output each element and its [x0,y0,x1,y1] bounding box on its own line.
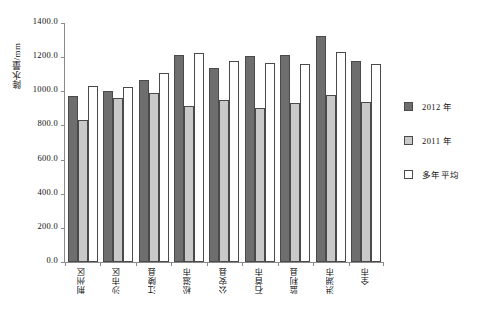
bar[interactable] [209,68,219,262]
bar[interactable] [245,56,255,262]
x-tick-mark [242,262,243,266]
x-axis-label: 监利县 [277,267,313,311]
legend-item[interactable]: 2012 年 [404,100,490,112]
x-tick-mark [207,262,208,266]
legend-label: 2012 年 [422,100,453,112]
y-axis-title: 降水量/mm [8,18,24,114]
bar[interactable] [280,55,290,262]
bar[interactable] [255,108,265,262]
y-tick-label: 800.0 [37,118,58,128]
y-tick-label: 1200.0 [33,50,58,60]
x-axis-label-text: 石首市 [254,267,266,294]
bar-group [242,24,277,262]
bar-groups [65,24,384,262]
plot-area: 1400.01200.01000.0800.0600.0400.0200.00.… [64,24,384,263]
bar-group [65,24,100,262]
bar[interactable] [139,80,149,262]
y-tick-label: 1000.0 [33,84,58,94]
x-axis-label: 石首市 [242,267,278,311]
chart-legend: 2012 年2011 年多年平均 [404,100,490,202]
bar[interactable] [103,91,113,262]
legend-swatch-icon [404,170,413,179]
bar[interactable] [174,55,184,262]
bar[interactable] [336,52,346,262]
x-axis-label-text: 洪湖市 [325,267,337,294]
legend-label: 多年平均 [422,168,460,180]
x-axis-label-text: 监利县 [289,267,301,294]
bar-group [171,24,206,262]
bar[interactable] [371,64,381,262]
bar[interactable] [229,61,239,262]
bar[interactable] [78,120,88,262]
bar[interactable] [113,98,123,262]
x-tick-mark [278,262,279,266]
bar[interactable] [68,96,78,262]
x-axis-label-text: 松滋市 [182,267,194,294]
bar[interactable] [149,93,159,262]
x-axis-label: 江陵县 [135,267,171,311]
x-axis-label: 荆州区 [64,267,100,311]
x-tick-mark [136,262,137,266]
legend-item[interactable]: 2011 年 [404,134,490,146]
x-tick-mark [313,262,314,266]
legend-swatch-icon [404,136,413,145]
bar[interactable] [219,100,229,262]
x-axis-label: 全市 [349,267,385,311]
bar[interactable] [194,53,204,262]
y-tick-label: 0.0 [46,255,58,265]
bar[interactable] [290,103,300,262]
y-tick-label: 200.0 [37,221,58,231]
x-axis-label: 洪湖市 [313,267,349,311]
legend-swatch-icon [404,102,413,111]
bar[interactable] [326,95,336,262]
bar-group [313,24,348,262]
x-axis-label-text: 沙市区 [111,267,123,294]
y-tick-label: 1400.0 [33,16,58,26]
x-tick-mark [383,262,384,266]
bar[interactable] [300,64,310,262]
bar[interactable] [361,102,371,262]
bar-group [207,24,242,262]
x-axis-labels: 荆州区沙市区江陵县松滋市公安县石首市监利县洪湖市全市 [64,267,384,311]
x-axis-label: 公安县 [206,267,242,311]
y-tick-label: 400.0 [37,187,58,197]
bar[interactable] [159,73,169,262]
bar[interactable] [123,87,133,262]
x-axis-label: 松滋市 [171,267,207,311]
bar[interactable] [265,63,275,262]
legend-item[interactable]: 多年平均 [404,168,490,180]
bar[interactable] [184,106,194,262]
x-axis-label: 沙市区 [100,267,136,311]
bar[interactable] [316,36,326,262]
y-tick-label: 600.0 [37,153,58,163]
x-tick-mark [349,262,350,266]
x-axis-label-text: 全市 [360,267,372,285]
x-axis-label-text: 荆州区 [76,267,88,294]
bar[interactable] [351,61,361,262]
chart-figure: 降水量/mm 1400.01200.01000.0800.0600.0400.0… [0,0,495,311]
x-tick-mark [100,262,101,266]
x-tick-mark [171,262,172,266]
x-axis-label-text: 江陵县 [147,267,159,294]
legend-label: 2011 年 [422,134,452,146]
bar-group [136,24,171,262]
bar-group [349,24,384,262]
bar[interactable] [88,86,98,262]
x-tick-mark [65,262,66,266]
bar-group [100,24,135,262]
x-axis-label-text: 公安县 [218,267,230,294]
bar-group [278,24,313,262]
